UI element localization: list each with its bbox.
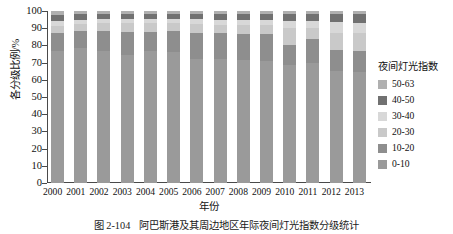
x-tick-label: 2003 (113, 185, 126, 199)
bar-segment-20-30 (214, 25, 227, 34)
y-tick-value: 20 (2, 144, 42, 154)
x-axis-title: 年份 (47, 198, 370, 213)
legend-item[interactable]: 0-10 (378, 156, 453, 172)
bar-group (47, 11, 370, 183)
bar-segment-20-30 (144, 23, 157, 32)
bar-segment-0-10 (306, 63, 319, 183)
legend-label: 40-50 (392, 94, 414, 106)
y-tick-value: 70 (2, 58, 42, 68)
legend: 夜间灯光指数 50-6340-5030-4020-3010-200-10 (378, 60, 453, 172)
x-tick-label: 2005 (159, 185, 172, 199)
bar-segment-0-10 (167, 52, 180, 183)
bar-segment-20-30 (190, 24, 203, 33)
y-tick-label: 30 (0, 126, 42, 136)
legend-label: 10-20 (392, 142, 414, 154)
y-tick-label: 90 (0, 23, 42, 33)
bar-segment-20-30 (97, 23, 110, 31)
bar-column[interactable] (214, 11, 227, 183)
plot-area (47, 11, 370, 183)
legend-label: 20-30 (392, 126, 414, 138)
bar-segment-10-20 (237, 34, 250, 60)
y-tick-value: 40 (2, 109, 42, 119)
bar-segment-40-50 (306, 14, 319, 22)
legend-swatch-icon (378, 96, 387, 105)
legend-item[interactable]: 10-20 (378, 140, 453, 156)
bar-segment-10-20 (306, 39, 319, 63)
bar-segment-30-40 (330, 22, 343, 32)
bar-segment-30-40 (353, 23, 366, 33)
legend-title: 夜间灯光指数 (378, 60, 453, 73)
figure-caption: 图 2-104阿巴斯港及其周边地区年际夜间灯光指数分级统计 (0, 219, 453, 233)
bar-segment-0-10 (190, 59, 203, 183)
figure-number: 图 2-104 (94, 220, 131, 231)
bar-column[interactable] (74, 11, 87, 183)
x-tick-label: 2012 (322, 185, 335, 199)
bar-segment-10-20 (167, 31, 180, 53)
bar-segment-20-30 (121, 23, 134, 32)
x-tick-label: 2011 (298, 185, 311, 199)
y-tick-label: 20 (0, 144, 42, 154)
legend-item[interactable]: 30-40 (378, 108, 453, 124)
bar-segment-0-10 (51, 51, 64, 183)
legend-swatch-icon (378, 80, 387, 89)
y-tick-value: 50 (2, 92, 42, 102)
bar-column[interactable] (97, 11, 110, 183)
bar-segment-30-40 (306, 21, 319, 28)
bar-segment-0-10 (260, 61, 273, 183)
bar-segment-20-30 (74, 24, 87, 31)
y-tick-value: 10 (2, 161, 42, 171)
bar-segment-10-20 (214, 33, 227, 59)
bar-segment-30-40 (283, 21, 296, 29)
y-tick-mark (42, 183, 47, 184)
legend-label: 30-40 (392, 110, 414, 122)
bar-segment-20-30 (330, 33, 343, 50)
legend-swatch-icon (378, 112, 387, 121)
y-tick-value: 0 (2, 178, 42, 188)
legend-label: 0-10 (392, 158, 410, 170)
bar-column[interactable] (306, 11, 319, 183)
bar-segment-10-20 (190, 33, 203, 59)
bar-segment-40-50 (353, 14, 366, 23)
bar-column[interactable] (260, 11, 273, 183)
bar-segment-0-10 (237, 60, 250, 183)
legend-item[interactable]: 40-50 (378, 92, 453, 108)
bar-segment-0-10 (97, 51, 110, 183)
bar-column[interactable] (283, 11, 296, 183)
bar-segment-10-20 (74, 31, 87, 48)
y-tick-value: 30 (2, 126, 42, 136)
y-tick-label: 80 (0, 40, 42, 50)
legend-label: 50-63 (392, 78, 414, 90)
bar-segment-0-10 (214, 59, 227, 183)
x-tick-label: 2007 (206, 185, 219, 199)
y-tick-value: 60 (2, 75, 42, 85)
legend-swatch-icon (378, 128, 387, 137)
bar-segment-20-30 (283, 28, 296, 44)
x-axis-labels: 2000200120022003200420052006200720082009… (47, 185, 370, 199)
bar-column[interactable] (353, 11, 366, 183)
x-tick-label: 2001 (66, 185, 79, 199)
bar-column[interactable] (51, 11, 64, 183)
bar-column[interactable] (167, 11, 180, 183)
bar-segment-10-20 (283, 45, 296, 66)
bar-column[interactable] (190, 11, 203, 183)
y-tick-label: 0 (0, 178, 42, 188)
y-tick-label: 40 (0, 109, 42, 119)
bar-segment-0-10 (353, 72, 366, 183)
x-tick-label: 2000 (43, 185, 56, 199)
bar-segment-10-20 (260, 34, 273, 61)
bar-segment-0-10 (121, 55, 134, 183)
legend-item[interactable]: 20-30 (378, 124, 453, 140)
bar-segment-10-20 (330, 50, 343, 72)
x-tick-label: 2006 (182, 185, 195, 199)
bar-segment-0-10 (74, 48, 87, 183)
y-tick-label: 50 (0, 92, 42, 102)
bar-column[interactable] (144, 11, 157, 183)
bar-segment-20-30 (237, 25, 250, 34)
legend-item[interactable]: 50-63 (378, 76, 453, 92)
bar-column[interactable] (330, 11, 343, 183)
bar-segment-0-10 (144, 51, 157, 183)
bar-column[interactable] (237, 11, 250, 183)
bar-column[interactable] (121, 11, 134, 183)
y-tick-value: 80 (2, 40, 42, 50)
bar-segment-10-20 (144, 32, 157, 52)
